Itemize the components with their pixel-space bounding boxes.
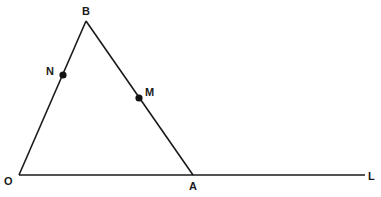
label-A: A — [189, 180, 197, 192]
label-L: L — [368, 170, 375, 182]
label-M: M — [145, 86, 154, 98]
label-N: N — [46, 65, 54, 77]
geometry-diagram: B N M O A L — [0, 0, 381, 197]
label-O: O — [4, 175, 13, 187]
point-N-dot — [59, 71, 66, 78]
point-M-dot — [135, 94, 142, 101]
label-B: B — [82, 5, 90, 17]
diagram-svg: B N M O A L — [0, 0, 381, 197]
segment-OB — [19, 21, 86, 175]
